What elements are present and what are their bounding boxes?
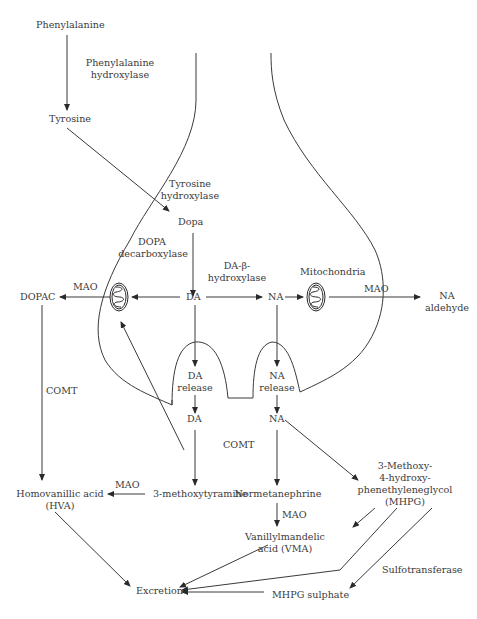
enzyme-comt-center: COMT (223, 439, 254, 451)
node-phenylalanine: Phenylalanine (36, 19, 105, 31)
node-na: NA (268, 291, 283, 303)
node-mhpg-line4: (MHPG) (355, 496, 455, 508)
node-dopa: Dopa (178, 216, 203, 228)
node-excretion: Excretion (136, 585, 183, 597)
enzyme-dbh-line2: hydroxylase (207, 272, 267, 284)
enzyme-tyrosine-hydroxylase-line1: Tyrosine (160, 178, 220, 190)
node-na-synaptic: NA (269, 413, 284, 425)
enzyme-mao-right: MAO (364, 283, 389, 295)
node-dopac: DOPAC (20, 291, 55, 303)
enzyme-sulfotransferase: Sulfotransferase (382, 564, 463, 576)
node-tyrosine: Tyrosine (49, 113, 91, 125)
node-na-aldehyde-line1: NA (426, 290, 468, 302)
enzyme-mao-hva: MAO (115, 479, 140, 491)
node-da-release-line1: DA (180, 370, 210, 382)
enzyme-phenylalanine-hydroxylase-line1: Phenylalanine (80, 57, 160, 69)
label-mitochondria: Mitochondria (300, 266, 366, 278)
neuron-membrane-boundary (172, 53, 383, 405)
node-da: DA (186, 291, 201, 303)
node-mhpg-line1: 3-Methoxy- (355, 460, 455, 472)
node-vma-line2: acid (VMA) (240, 543, 330, 555)
node-na-release-line1: NA (262, 370, 292, 382)
catecholamine-metabolism-diagram: Phenylalanine Tyrosine Dopa DA NA DOPAC … (0, 0, 477, 619)
node-vma-line1: Vanillylmandelic (240, 531, 330, 543)
enzyme-comt-left: COMT (46, 385, 77, 397)
node-da-release-line2: release (176, 382, 214, 394)
node-mhpg-line2: 4-hydroxy- (355, 472, 455, 484)
pathway-lines (0, 0, 477, 619)
node-mhpg-sulphate: MHPG sulphate (272, 589, 349, 601)
mitochondrion-right-icon (307, 283, 325, 311)
node-na-release-line2: release (258, 382, 296, 394)
node-normetanephrine: Normetanephrine (233, 488, 323, 500)
enzyme-phenylalanine-hydroxylase-line2: hydroxylase (80, 69, 160, 81)
node-hva-line1: Homovanillic acid (15, 488, 105, 500)
node-da-synaptic: DA (187, 413, 202, 425)
enzyme-mao-vma: MAO (282, 509, 307, 521)
enzyme-dopa-decarboxylase-line2: decarboxylase (118, 248, 188, 260)
enzyme-tyrosine-hydroxylase-line2: hydroxylase (155, 190, 225, 202)
enzyme-dbh-line1: DA-β- (212, 260, 262, 272)
node-mhpg-line3: phenethyleneglycol (355, 484, 455, 496)
node-na-aldehyde-line2: aldehyde (420, 302, 474, 314)
enzyme-mao-left: MAO (73, 281, 98, 293)
enzyme-dopa-decarboxylase-line1: DOPA (122, 236, 182, 248)
mitochondrion-left-icon (110, 283, 128, 311)
node-hva-line2: (HVA) (15, 500, 105, 512)
